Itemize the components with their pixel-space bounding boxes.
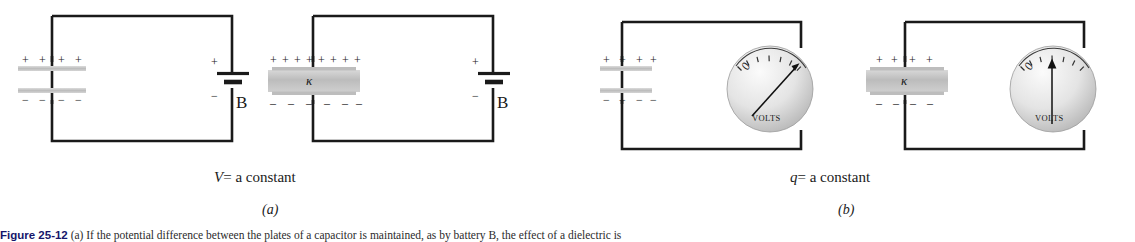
capacitor-top-plate <box>272 67 356 71</box>
circuit-a-left <box>18 16 249 141</box>
plus-sign: + <box>270 54 277 66</box>
plus-sign: + <box>909 54 916 66</box>
minus-sign: – <box>288 97 294 109</box>
plus-sign: + <box>650 54 657 66</box>
minus-sign: – <box>910 97 916 109</box>
minus-sign: – <box>324 97 330 109</box>
plus-sign: + <box>294 54 301 66</box>
plus-sign: + <box>636 54 643 66</box>
minus-sign: – <box>342 97 348 109</box>
minus-sign: − <box>22 94 29 106</box>
plus-sign: + <box>926 54 933 66</box>
minus-sign: – <box>306 97 312 109</box>
panel-a-condition-rest: = a constant <box>223 169 296 185</box>
capacitor-bottom-plate <box>272 92 356 96</box>
minus-sign: – <box>927 97 933 109</box>
minus-sign: − <box>58 94 65 106</box>
panel-b-condition-rest: = a constant <box>798 169 871 185</box>
plus-sign: + <box>58 54 65 66</box>
minus-sign: − <box>650 94 657 106</box>
plus-sign: + <box>342 54 349 66</box>
capacitor-bottom-plate <box>870 92 944 96</box>
wire-loop <box>52 16 232 141</box>
minus-sign: − <box>75 94 82 106</box>
minus-sign: − <box>636 94 643 106</box>
plus-sign: + <box>75 54 82 66</box>
panel-a-condition-symbol: V <box>214 169 223 185</box>
minus-sign: – <box>356 97 362 109</box>
voltmeter-unit-label: VOLTS <box>1035 114 1064 123</box>
minus-sign: − <box>39 94 46 106</box>
minus-sign: − <box>603 94 610 106</box>
battery-minus-sign: − <box>472 90 479 102</box>
plus-sign: + <box>306 54 313 66</box>
minus-sign: – <box>893 97 899 109</box>
circuit-a-right <box>268 16 510 141</box>
dielectric-slab <box>268 70 360 92</box>
capacitor-top-plate <box>870 67 944 71</box>
battery-plus-sign: + <box>211 56 218 68</box>
figure-caption: Figure 25-12 (a) If the potential differ… <box>0 228 1135 242</box>
plus-sign: + <box>22 54 29 66</box>
plus-sign: + <box>330 54 337 66</box>
figure-root: + + + + − − − − + − B + + + + + + + + – … <box>0 0 1135 242</box>
figure-caption-label: Figure 25-12 <box>0 229 68 241</box>
battery-label: B <box>236 94 247 111</box>
battery-minus-sign: − <box>211 90 218 102</box>
panel-letter-b: (b) <box>838 203 854 217</box>
plus-sign: + <box>891 54 898 66</box>
figure-canvas <box>0 0 1135 242</box>
battery-label: B <box>497 94 508 111</box>
voltmeter-unit-label: VOLTS <box>752 114 781 123</box>
plus-sign: + <box>354 54 361 66</box>
minus-sign: – <box>270 97 276 109</box>
battery-plus-sign: + <box>472 56 479 68</box>
minus-sign: – <box>876 97 882 109</box>
panel-a-condition: V= a constant <box>214 170 296 185</box>
panel-letter-a: (a) <box>262 203 278 217</box>
minus-sign: − <box>619 94 626 106</box>
dielectric-constant-symbol: κ <box>306 74 312 87</box>
panel-b-condition: q= a constant <box>790 170 870 185</box>
plus-sign: + <box>619 54 626 66</box>
plus-sign: + <box>876 54 883 66</box>
circuit-b-left <box>600 22 813 149</box>
plus-sign: + <box>318 54 325 66</box>
plus-sign: + <box>282 54 289 66</box>
plus-sign: + <box>39 54 46 66</box>
figure-caption-text: (a) If the potential difference between … <box>71 229 622 241</box>
panel-b-condition-symbol: q <box>790 169 798 185</box>
plus-sign: + <box>603 54 610 66</box>
dielectric-constant-symbol: κ <box>901 74 907 87</box>
